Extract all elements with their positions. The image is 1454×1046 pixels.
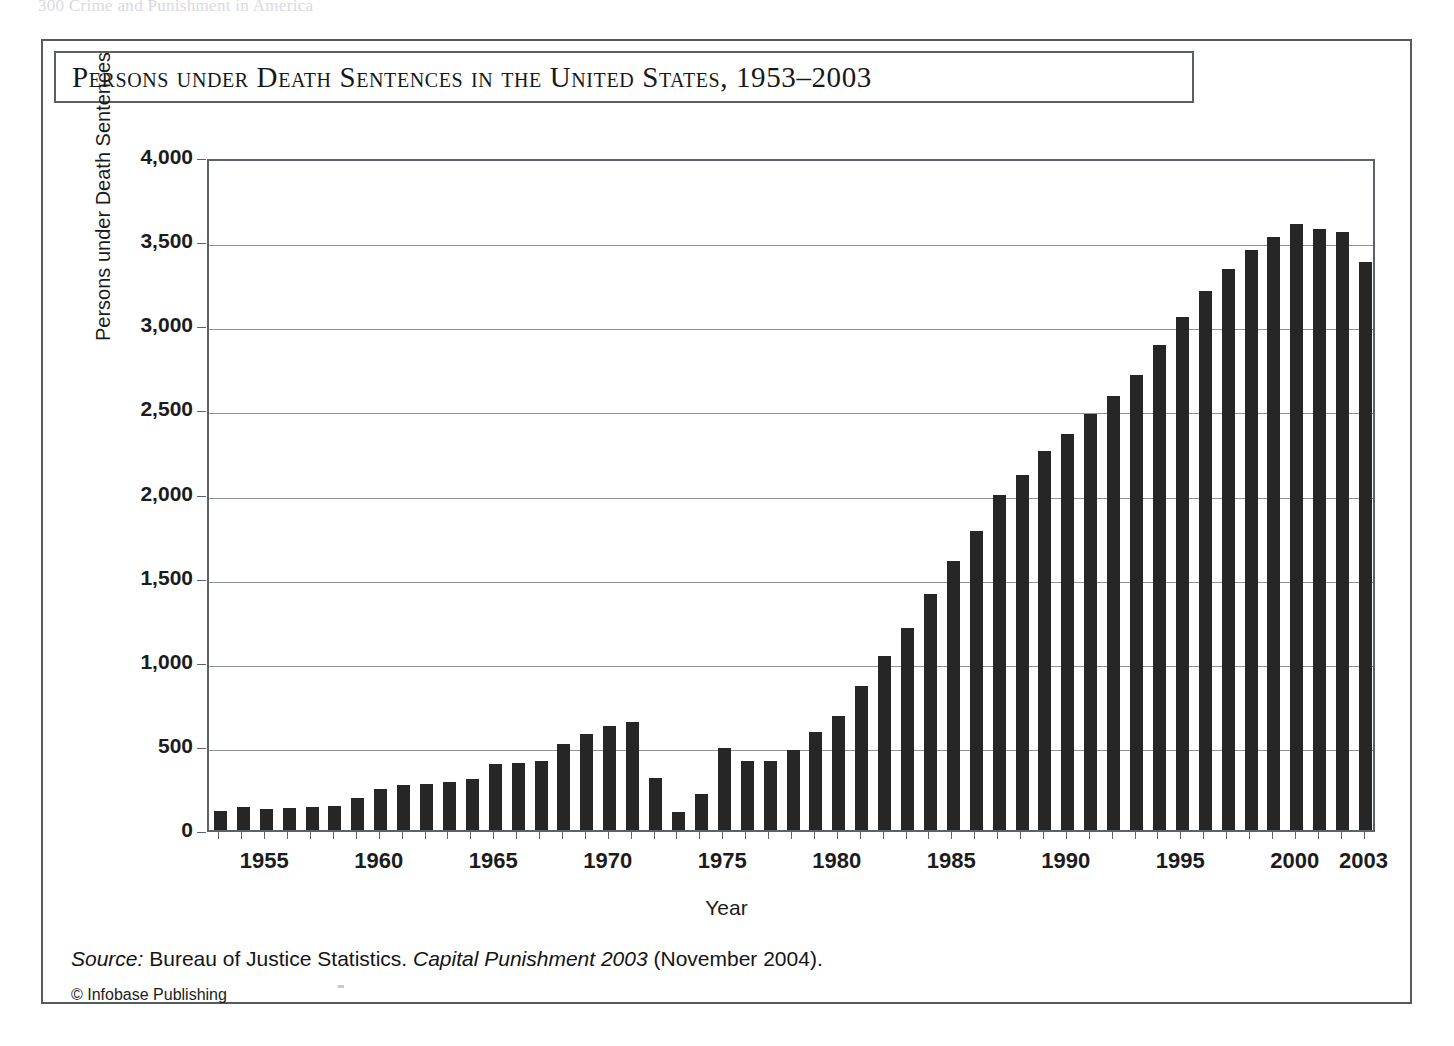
y-tick-label: 2,500	[77, 397, 193, 421]
bar	[580, 734, 593, 830]
y-axis-label: Persons under Death Sentences	[92, 52, 115, 341]
x-tick-mark	[906, 832, 907, 839]
x-tick-label: 1955	[240, 848, 289, 874]
bar	[1176, 317, 1189, 830]
x-tick-mark	[1112, 832, 1113, 839]
x-tick-mark	[928, 832, 929, 839]
x-tick-mark	[1295, 832, 1296, 839]
bar	[947, 561, 960, 830]
x-tick-mark	[333, 832, 334, 839]
chart-title: Persons under Death Sentences in the Uni…	[72, 61, 872, 94]
y-tick-mark	[197, 832, 206, 833]
bar	[489, 764, 502, 830]
bar	[214, 811, 227, 830]
x-tick-label: 2000	[1270, 848, 1319, 874]
x-tick-mark	[654, 832, 655, 839]
bar	[695, 794, 708, 830]
bar	[1336, 232, 1349, 830]
y-tick-mark	[197, 411, 206, 412]
y-tick-mark	[197, 748, 206, 749]
y-tick-label: 2,000	[77, 482, 193, 506]
x-tick-label: 1970	[583, 848, 632, 874]
bar	[1267, 237, 1280, 830]
x-tick-mark	[1066, 832, 1067, 839]
bar	[557, 744, 570, 830]
copyright-note: © Infobase Publishing	[71, 986, 227, 1004]
x-tick-mark	[768, 832, 769, 839]
x-tick-mark	[1089, 832, 1090, 839]
bar	[1130, 375, 1143, 830]
x-tick-mark	[310, 832, 311, 839]
x-tick-mark	[539, 832, 540, 839]
x-tick-mark	[585, 832, 586, 839]
x-tick-mark	[860, 832, 861, 839]
bar	[1245, 250, 1258, 830]
page-running-header: 300 Crime and Punishment in America	[38, 0, 658, 18]
bar	[1107, 396, 1120, 830]
y-tick-mark	[197, 496, 206, 497]
x-tick-label: 1965	[469, 848, 518, 874]
source-publication: Capital Punishment 2003	[413, 947, 648, 970]
bar	[1061, 434, 1074, 830]
x-tick-mark	[1249, 832, 1250, 839]
bar	[1199, 291, 1212, 830]
bar	[993, 495, 1006, 830]
scan-artifact	[338, 985, 344, 988]
y-tick-mark	[197, 159, 206, 160]
x-tick-mark	[837, 832, 838, 839]
x-tick-mark	[1226, 832, 1227, 839]
bar	[260, 809, 273, 830]
y-tick-label: 1,000	[77, 650, 193, 674]
x-tick-mark	[951, 832, 952, 839]
bar	[328, 806, 341, 830]
x-tick-mark	[699, 832, 700, 839]
source-text-1: Bureau of Justice Statistics.	[143, 947, 413, 970]
x-axis-label: Year	[43, 896, 1410, 920]
y-tick-label: 3,000	[77, 313, 193, 337]
x-tick-mark	[1341, 832, 1342, 839]
x-tick-mark	[883, 832, 884, 839]
y-tick-mark	[197, 580, 206, 581]
bar	[1038, 451, 1051, 830]
x-tick-mark	[1135, 832, 1136, 839]
y-tick-mark	[197, 664, 206, 665]
bar	[351, 798, 364, 830]
bar	[901, 628, 914, 830]
x-tick-mark	[1318, 832, 1319, 839]
x-tick-mark	[631, 832, 632, 839]
x-tick-mark	[722, 832, 723, 839]
y-tick-label: 500	[77, 734, 193, 758]
x-tick-label: 2003	[1339, 848, 1388, 874]
x-tick-mark	[608, 832, 609, 839]
bar	[1153, 345, 1166, 830]
bar	[855, 686, 868, 830]
bar	[672, 812, 685, 831]
x-tick-mark	[814, 832, 815, 839]
x-tick-mark	[402, 832, 403, 839]
x-tick-mark	[997, 832, 998, 839]
x-tick-mark	[516, 832, 517, 839]
bar	[603, 726, 616, 830]
y-tick-mark	[197, 243, 206, 244]
bar	[420, 784, 433, 830]
x-tick-mark	[676, 832, 677, 839]
x-tick-mark	[264, 832, 265, 839]
x-tick-mark	[287, 832, 288, 839]
bar	[466, 779, 479, 830]
y-tick-label: 1,500	[77, 566, 193, 590]
x-tick-label: 1985	[927, 848, 976, 874]
bar	[1084, 414, 1097, 830]
x-tick-mark	[218, 832, 219, 839]
source-text-2: (November 2004).	[648, 947, 823, 970]
bar	[718, 748, 731, 830]
plot-wrap: 05001,0001,5002,0002,5003,0003,5004,000 …	[207, 159, 1375, 832]
y-tick-label: 0	[77, 818, 193, 842]
bar	[649, 778, 662, 830]
x-tick-label: 1980	[812, 848, 861, 874]
bar	[787, 750, 800, 830]
x-tick-mark	[1203, 832, 1204, 839]
bar	[1313, 229, 1326, 830]
x-tick-mark	[470, 832, 471, 839]
bar	[1359, 262, 1372, 830]
x-tick-mark	[379, 832, 380, 839]
